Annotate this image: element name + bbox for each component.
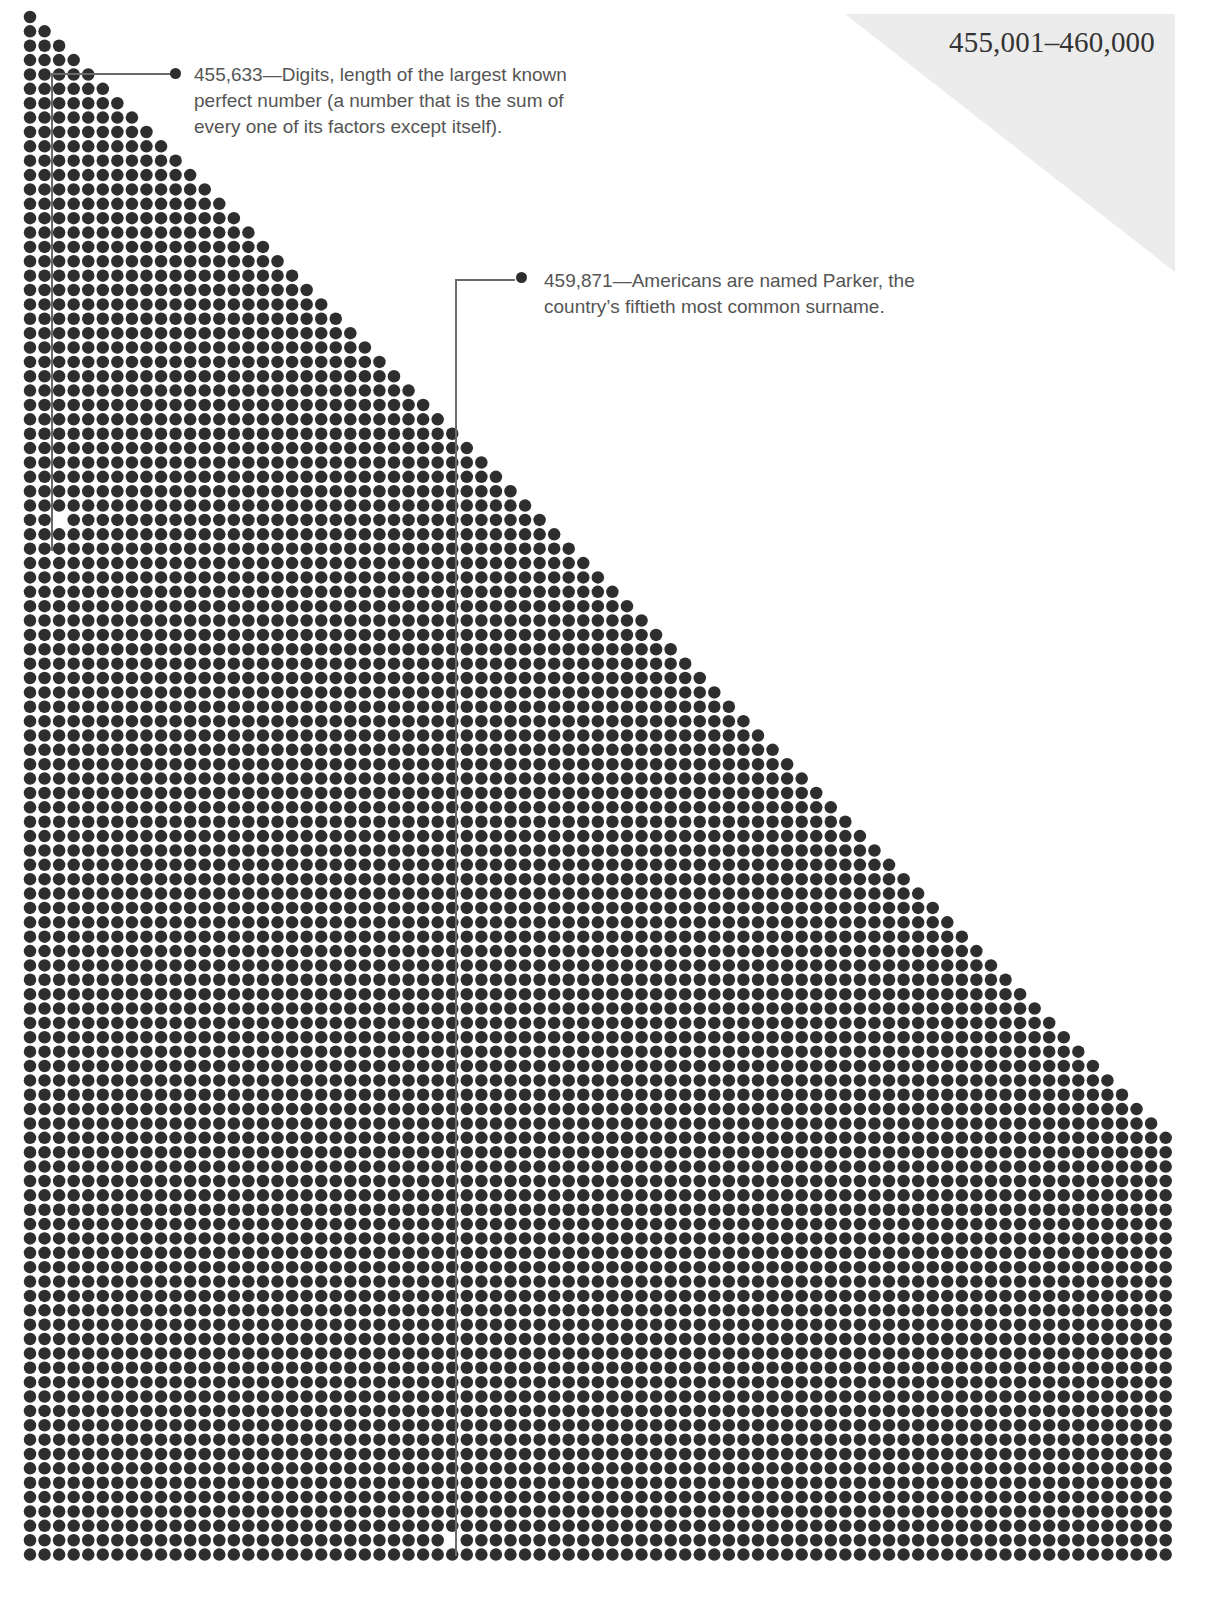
leader-line-horizontal-1	[51, 73, 171, 75]
annotation-parker-surname: 459,871—Americans are named Parker, the …	[544, 268, 915, 320]
leader-line-vertical-2	[455, 279, 457, 1556]
annotation-perfect-number: 455,633—Digits, length of the largest kn…	[194, 62, 567, 140]
leader-dot-icon-2	[516, 272, 527, 283]
leader-dot-icon-1	[170, 68, 181, 79]
annotation-2-line-2: country’s fiftieth most common surname.	[544, 294, 915, 320]
annotation-2-line-1: 459,871—Americans are named Parker, the	[544, 268, 915, 294]
annotation-1-line-1: 455,633—Digits, length of the largest kn…	[194, 62, 567, 88]
leader-line-horizontal-2	[455, 279, 515, 281]
leader-line-vertical-1	[51, 73, 53, 551]
annotation-1-line-2: perfect number (a number that is the sum…	[194, 88, 567, 114]
annotation-1-line-3: every one of its factors except itself).	[194, 114, 567, 140]
dot-matrix-chart	[0, 0, 1212, 1601]
